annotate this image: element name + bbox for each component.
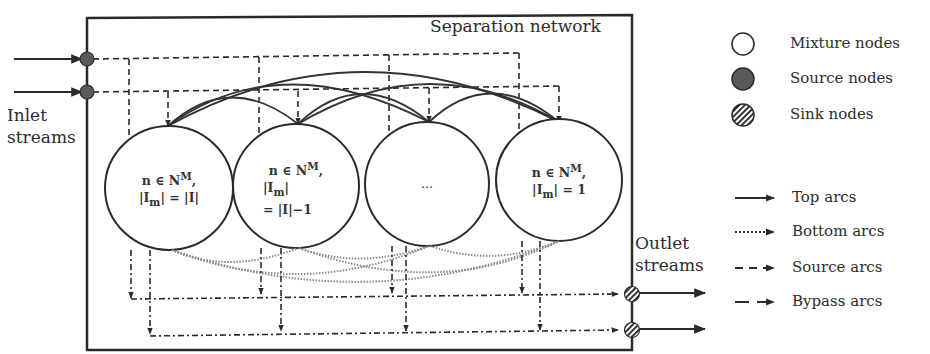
mixture-node-4-label: n ∈ NM, |Im| = 1 [504,160,614,203]
top-arcs [168,72,559,126]
node-set-text: n ∈ N [269,163,307,178]
source-node-2 [80,85,94,99]
node-card-tail: | = 1 [554,182,586,197]
mixture-node-icon [732,33,754,55]
mixture-node-1-label: n ∈ NM, |Im| = |I| [114,168,224,211]
legend-bottom-arcs: Bottom arcs [792,222,884,240]
node-set-tail: , [192,173,196,188]
inlet-label-line-2: streams [7,126,76,148]
node-card-sub: m [149,196,160,208]
legend-top-arcs: Top arcs [792,188,856,206]
node-set-sup: M [570,162,582,174]
node-set-text: n ∈ N [142,173,180,188]
outlet-label-line-2: streams [635,254,704,276]
bypass-arcs [131,241,618,336]
node-card-line-3: = |I|−1 [241,201,351,218]
node-card-tail: | [284,180,289,195]
legend-source-nodes: Source nodes [790,69,893,87]
source-node-1 [80,52,94,66]
node-card-text: |I [532,182,542,197]
legend-node-icons [732,33,754,126]
legend-arc-icons [735,198,774,302]
node-set-tail: , [319,163,323,178]
sink-node-icon [732,104,754,126]
legend-bypass-arcs: Bypass arcs [792,292,882,310]
node-set-tail: , [582,165,586,180]
node-set-sup: M [307,160,319,172]
legend-sink-nodes: Sink nodes [790,105,873,123]
source-node-icon [732,68,754,90]
legend-mixture-nodes: Mixture nodes [790,34,900,52]
sink-node-1 [625,287,640,302]
outlet-label: Outlet streams [635,232,704,276]
mixture-node-3-label: … [372,175,482,192]
node-card-sub: m [542,188,553,200]
outlet-streams [640,293,705,329]
node-set-text: n ∈ N [532,165,570,180]
node-card-tail: | = |I| [160,190,199,205]
bottom-arcs [172,241,559,282]
node-card-text: |I [139,190,149,205]
inlet-streams [14,59,82,92]
sink-node-2 [625,323,640,338]
inlet-label-line-1: Inlet [7,104,76,126]
outlet-label-line-1: Outlet [635,232,704,254]
mixture-node-2-label: n ∈ NM, |Im| = |I|−1 [241,158,351,218]
node-card-text: |I [263,180,273,195]
node-set-sup: M [180,170,192,182]
network-title: Separation network [430,16,601,36]
node-card-sub: m [273,186,284,198]
inlet-label: Inlet streams [7,104,76,148]
legend-source-arcs: Source arcs [792,258,882,276]
